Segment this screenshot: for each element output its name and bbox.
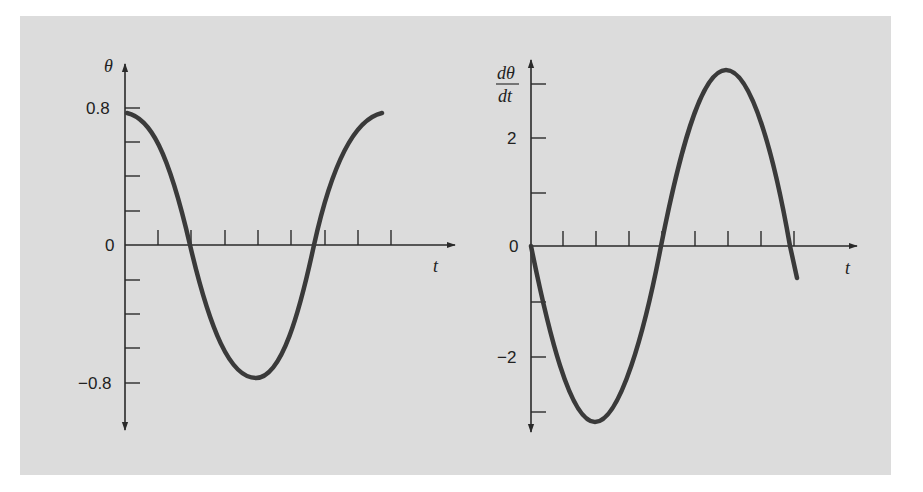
theta-x-ticks <box>158 230 391 245</box>
theta-ytick-neg0.8: −0.8 <box>78 374 112 393</box>
theta-x-axis-label: t <box>433 256 439 276</box>
dtheta-chart: dθ dt t 2 0 −2 <box>496 60 857 432</box>
dtheta-label-denominator: dt <box>498 86 513 106</box>
dtheta-y-axis-label: dθ dt <box>496 63 519 106</box>
dtheta-x-ticks <box>563 231 794 246</box>
theta-chart: θ t 0.8 0 −0.8 <box>78 56 455 430</box>
dtheta-x-axis-label: t <box>845 258 851 278</box>
theta-ytick-0.8: 0.8 <box>86 99 110 118</box>
dtheta-label-numerator: dθ <box>497 63 515 83</box>
figure: θ t 0.8 0 −0.8 dθ <box>0 0 923 492</box>
theta-y-axis-label: θ <box>104 56 113 76</box>
dtheta-ytick-2: 2 <box>507 129 516 148</box>
dtheta-ytick-neg2: −2 <box>497 348 516 367</box>
theta-ytick-0: 0 <box>105 236 114 255</box>
dtheta-ytick-0: 0 <box>509 237 518 256</box>
